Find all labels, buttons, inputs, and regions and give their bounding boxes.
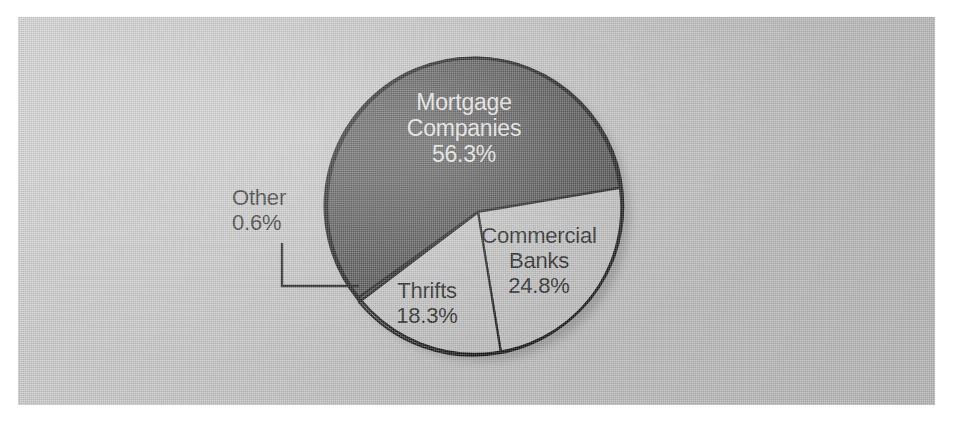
pie-label-thrifts: Thrifts 18.3% <box>368 278 486 328</box>
pie-chart <box>18 17 935 405</box>
figure-panel: Mortgage Companies 56.3% Commercial Bank… <box>18 17 935 405</box>
pie-label-other: Other 0.6% <box>232 185 336 235</box>
pie-label-mortgage-companies: Mortgage Companies 56.3% <box>374 89 554 168</box>
